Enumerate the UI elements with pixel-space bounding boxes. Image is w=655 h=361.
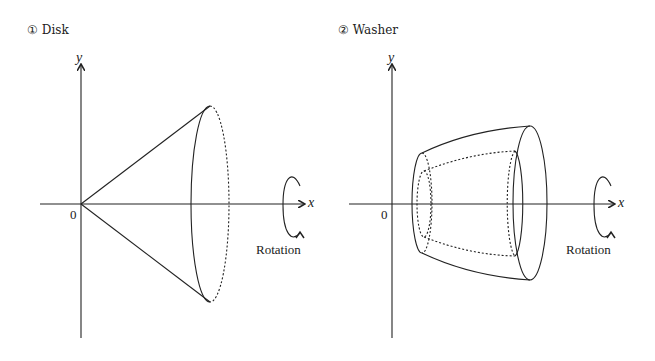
washer-diagram [349, 64, 615, 338]
outer-lower-curve [422, 253, 530, 280]
inner-lower-curve [424, 237, 515, 256]
disk-rotation-arrow-icon [283, 177, 300, 237]
washer-rotation-arrow-icon [594, 177, 611, 237]
inner-upper-curve [424, 151, 515, 171]
outer-upper-curve [422, 126, 530, 153]
diagram-canvas [0, 0, 655, 361]
disk-diagram [40, 64, 305, 338]
